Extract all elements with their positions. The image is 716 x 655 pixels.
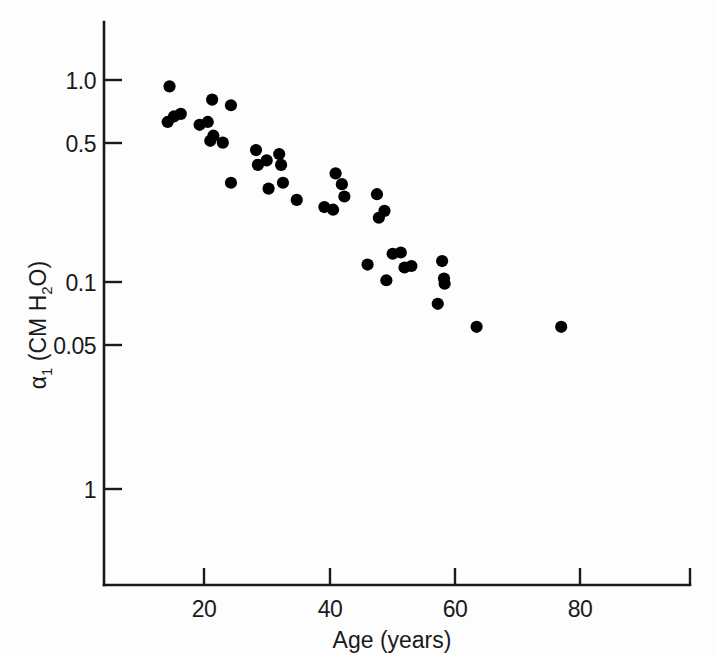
y-axis-ticks: [104, 80, 122, 489]
data-point: [204, 135, 216, 147]
x-tick-label-40: 40: [318, 596, 343, 622]
data-point: [330, 167, 342, 179]
data-point: [206, 93, 218, 105]
data-point: [471, 321, 483, 333]
y-title-units: (CM H: [25, 295, 51, 368]
data-point: [291, 194, 303, 206]
y-title-units-subscript: 2: [38, 286, 55, 294]
data-point: [225, 99, 237, 111]
data-point: [225, 177, 237, 189]
x-tick-label-80: 80: [568, 596, 593, 622]
x-axis-title: Age (years): [333, 627, 452, 653]
data-point: [395, 246, 407, 258]
svg-text:α1 (CM H2O): α1 (CM H2O): [25, 261, 55, 389]
x-tick-label-60: 60: [443, 596, 468, 622]
data-point: [217, 136, 229, 148]
data-point: [371, 188, 383, 200]
x-tick-label-20: 20: [192, 596, 217, 622]
data-point: [175, 108, 187, 120]
data-point: [338, 190, 350, 202]
data-point: [250, 144, 262, 156]
data-point: [262, 183, 274, 195]
y-tick-label-0.5: 0.5: [66, 131, 96, 157]
y-tick-label-0.05: 0.05: [53, 333, 96, 359]
data-point: [202, 116, 214, 128]
y-axis-title: α1 (CM H2O): [25, 261, 55, 389]
data-point: [327, 204, 339, 216]
y-tick-label-1: 1: [84, 477, 96, 503]
data-point: [432, 298, 444, 310]
data-point: [163, 80, 175, 92]
plot-canvas: 1.0 0.5 0.1 0.05 1 20 40 60 80 Age (year…: [0, 0, 716, 655]
data-point: [277, 177, 289, 189]
data-point: [555, 321, 567, 333]
scatter-plot-figure: 1.0 0.5 0.1 0.05 1 20 40 60 80 Age (year…: [0, 0, 716, 655]
data-point: [378, 205, 390, 217]
data-point: [275, 159, 287, 171]
y-title-symbol: α: [25, 376, 51, 389]
data-point: [436, 255, 448, 267]
data-point: [261, 154, 273, 166]
data-point: [336, 178, 348, 190]
y-tick-label-1.0: 1.0: [66, 68, 96, 94]
y-tick-label-0.1: 0.1: [66, 270, 96, 296]
data-point: [405, 260, 417, 272]
y-title-subscript: 1: [38, 368, 55, 376]
y-title-units-tail: O): [25, 261, 51, 287]
data-point: [439, 278, 451, 290]
data-point: [361, 258, 373, 270]
x-axis-ticks: [204, 568, 690, 585]
data-points-layer: [162, 80, 568, 333]
data-point: [380, 274, 392, 286]
data-point: [273, 148, 285, 160]
